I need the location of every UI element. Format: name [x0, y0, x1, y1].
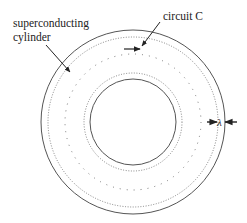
inner-penetration-dotted-circle	[84, 73, 182, 171]
circuit-c-label: circuit C	[163, 10, 203, 22]
cylinder-label-line2: cylinder	[13, 31, 51, 44]
outer-surface-circle	[41, 30, 225, 214]
outer-penetration-dotted-circle	[48, 37, 218, 207]
circuit-c-circle	[65, 54, 201, 190]
lambda-label: λ	[216, 116, 222, 128]
cylinder-label-line1: superconducting	[13, 17, 89, 30]
inner-surface-circle	[90, 79, 176, 165]
superconducting-cylinder-diagram: superconducting cylinder circuit C λ	[0, 0, 247, 223]
circuit-pointer-arrow	[142, 22, 160, 46]
